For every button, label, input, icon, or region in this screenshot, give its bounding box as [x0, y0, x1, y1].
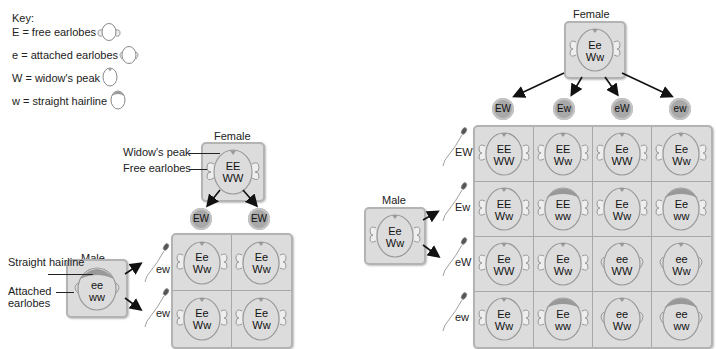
- genotype: Ee Ww: [566, 39, 624, 63]
- genotype: EeWw: [475, 308, 533, 332]
- punnett-cell: EeWw: [593, 182, 652, 237]
- punnett-cell: EEWw: [534, 127, 593, 182]
- genotype: eeww: [652, 308, 711, 332]
- leader-line: [189, 169, 207, 170]
- leader-line: [56, 292, 74, 293]
- punnett-cell: EEWw: [475, 182, 534, 237]
- punnett-cell: EeWW: [475, 237, 534, 292]
- punnett-cell: EeWw: [475, 292, 534, 347]
- free-earlobes-head-icon: [96, 22, 122, 42]
- gamete-egg: EW: [248, 208, 270, 230]
- genotype: EeWw: [652, 143, 711, 167]
- genotype: EeWW: [593, 143, 651, 167]
- genotype: EEWw: [534, 143, 592, 167]
- punnett-square-2: EEWWEEWwEeWWEeWwEEWwEEwwEeWwEewwEeWWEeWw…: [473, 125, 713, 349]
- gamete-egg: EW: [492, 98, 514, 120]
- genotype: EeWw: [534, 253, 592, 277]
- gamete-egg: EW: [190, 208, 212, 230]
- gamete-sperm-label: ew: [455, 311, 469, 323]
- gamete-sperm-label: Ew: [455, 201, 470, 213]
- annotation-free-earlobes: Free earlobes: [123, 162, 191, 174]
- arrow-icon: [572, 77, 582, 94]
- punnett-cell: Eeww: [652, 182, 711, 237]
- key-item-free-earlobes: E = free earlobes: [12, 26, 96, 38]
- genotype: eeWW: [593, 253, 651, 277]
- punnett-cell: EEWW: [475, 127, 534, 182]
- annotation-widows-peak: Widow's peak: [123, 146, 191, 158]
- punnett-cell: EeWW: [593, 127, 652, 182]
- annotation-attached-earlobes: Attached earlobes: [8, 285, 66, 309]
- genotype: eeWw: [652, 253, 711, 277]
- genotype: EeWw: [593, 198, 651, 222]
- punnett-cell: EEww: [534, 182, 593, 237]
- leader-line: [189, 153, 220, 154]
- attached-earlobes-head-icon: [116, 45, 142, 65]
- punnett-cell: EeWw: [173, 291, 232, 347]
- punnett-cell: eeww: [652, 292, 711, 347]
- cross2-female-box: Ee Ww: [564, 21, 626, 79]
- punnett-cell: eeWw: [652, 237, 711, 292]
- punnett-cell: EeWw: [534, 237, 593, 292]
- genotype: eeWw: [593, 308, 651, 332]
- leader-line: [48, 274, 93, 275]
- genotype: Eeww: [652, 198, 711, 222]
- genotype: ee ww: [68, 279, 126, 303]
- genotype: Ee Ww: [366, 225, 424, 249]
- straight-hairline-head-icon: [108, 89, 128, 111]
- genotype: EeWW: [475, 253, 533, 277]
- gamete-egg: Ew: [553, 98, 575, 120]
- gamete-egg: eW: [611, 98, 633, 120]
- cross2-male-label: Male: [382, 194, 406, 206]
- gamete-sperm-label: ew: [156, 307, 170, 319]
- gamete-sperm-label: EW: [455, 146, 473, 158]
- punnett-cell: EeWw: [173, 235, 232, 291]
- arrow-icon: [622, 73, 671, 96]
- genotype: EE WW: [203, 160, 263, 184]
- punnett-cell: eeWw: [593, 292, 652, 347]
- genotype: EEww: [534, 198, 592, 222]
- punnett-cell: eeWW: [593, 237, 652, 292]
- punnett-square-1: EeWw EeWw EeWw EeWw: [171, 233, 293, 349]
- gamete-sperm-label: ew: [156, 263, 170, 275]
- arrow-icon: [605, 77, 617, 94]
- key-item-widows-peak: W = widow's peak: [12, 72, 100, 84]
- gamete-egg: ew: [669, 98, 691, 120]
- genotype: EEWw: [475, 198, 533, 222]
- cross2-male-box: Ee Ww: [364, 207, 426, 265]
- genotype: EEWW: [475, 143, 533, 167]
- genotype: Eeww: [534, 308, 592, 332]
- arrow-icon: [515, 73, 564, 96]
- widows-peak-head-icon: [100, 66, 120, 88]
- punnett-cell: Eeww: [534, 292, 593, 347]
- punnett-cell: EeWw: [232, 291, 291, 347]
- cross2-female-label: Female: [573, 8, 610, 20]
- punnett-cell: EeWw: [232, 235, 291, 291]
- key-item-straight-hairline: w = straight hairline: [12, 95, 107, 107]
- annotation-straight-hairline: Straight hairline: [8, 256, 84, 268]
- key-title: Key:: [12, 12, 34, 24]
- cross1-female-box: EE WW: [201, 142, 265, 202]
- gamete-sperm-label: eW: [455, 256, 472, 268]
- punnett-cell: EeWw: [652, 127, 711, 182]
- cross1-female-label: Female: [214, 130, 251, 142]
- key-item-attached-earlobes: e = attached earlobes: [12, 49, 118, 61]
